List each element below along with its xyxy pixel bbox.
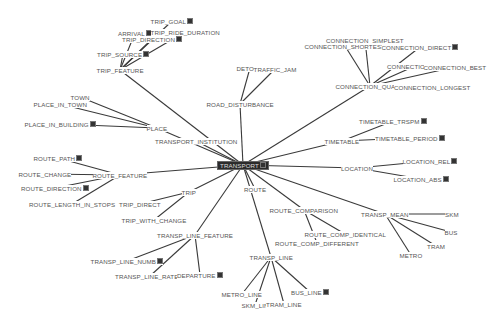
edge-transport-to-transp-line	[243, 165, 271, 257]
node-route-comp-different[interactable]: ROUTE_COMP_DIFFERENT	[275, 240, 359, 247]
node-label: CONNECTION_DIRECT	[382, 44, 452, 51]
node-label: TRANSPORT_INSTITUTION	[155, 138, 237, 145]
node-label: TRAFFIC_JAM	[254, 66, 297, 73]
node-bus[interactable]: BUS	[445, 229, 458, 236]
node-trip-goal[interactable]: TRIP_GOAL	[151, 18, 194, 25]
node-transp-mean[interactable]: TRANSP_MEAN	[361, 211, 409, 218]
node-trip-ride-duration[interactable]: TRIP_RIDE_DURATION	[151, 29, 220, 36]
node-departure[interactable]: DEPARTURE	[177, 272, 223, 279]
expand-badge-icon[interactable]	[90, 121, 96, 127]
node-route[interactable]: ROUTE	[244, 186, 266, 193]
node-bus-line[interactable]: BUS_LINE	[291, 289, 329, 296]
node-label: TRIP_SOURCE	[97, 51, 142, 58]
node-label: TIMETABLE_TRSPM	[359, 118, 420, 125]
node-place-in-town[interactable]: PLACE_IN_TOWN	[34, 101, 87, 108]
node-transp-line-numb[interactable]: TRANSP_LINE_NUMB	[91, 258, 164, 265]
expand-badge-icon[interactable]	[143, 51, 149, 57]
node-route-length-in-stops[interactable]: ROUTE_LENGTH_IN_STOPS	[29, 201, 115, 208]
node-metro[interactable]: METRO	[400, 252, 423, 259]
node-label: TRIP_FEATURE	[97, 67, 144, 74]
node-transp-line-feature[interactable]: TRANSP_LINE_FEATURE	[157, 232, 233, 239]
node-traffic-jam[interactable]: TRAFFIC_JAM	[254, 66, 297, 73]
node-location-rel[interactable]: LOCATION_REL	[403, 158, 458, 165]
node-label: ROUTE_CHANGE	[19, 171, 72, 178]
node-label: TRANSP_MEAN	[361, 211, 409, 218]
node-connection-shortest[interactable]: CONNECTION_SHORTEST	[305, 43, 386, 50]
node-road-disturbance[interactable]: ROAD_DISTURBANCE	[207, 101, 274, 108]
node-connection-direct[interactable]: CONNECTION_DIRECT	[382, 44, 459, 51]
node-trip[interactable]: TRIP	[182, 189, 197, 196]
edge-transport-to-road-disturbance	[240, 104, 243, 165]
node-metro-line[interactable]: METRO_LINE	[222, 291, 263, 298]
node-timetable[interactable]: TIMETABLE	[325, 138, 360, 145]
expand-badge-icon[interactable]	[187, 18, 193, 24]
expand-badge-icon[interactable]	[157, 258, 163, 264]
node-label: TRIP_DIRECTION	[122, 36, 175, 43]
edge-transport-to-place	[157, 128, 243, 165]
expand-badge-icon[interactable]	[217, 272, 223, 278]
node-route-path[interactable]: ROUTE_PATH	[34, 155, 83, 162]
node-connection-best[interactable]: CONNECTION_BEST	[424, 64, 487, 71]
node-trip-with-change[interactable]: TRIP_WITH_CHANGE	[122, 217, 187, 224]
node-label: PLACE	[147, 125, 168, 132]
edge-transp-line-to-skm-line	[255, 257, 271, 305]
node-label: BUS_LINE	[291, 289, 322, 296]
node-label: ROUTE	[244, 186, 266, 193]
expand-badge-icon[interactable]	[323, 289, 329, 295]
node-trip-source[interactable]: TRIP_SOURCE	[97, 51, 149, 58]
node-label: TRANSP_LINE_RATE	[115, 273, 178, 280]
node-label: TRIP_DIRECT	[119, 201, 161, 208]
node-trip-feature[interactable]: TRIP_FEATURE	[97, 67, 144, 74]
node-place[interactable]: PLACE	[147, 125, 168, 132]
node-route-feature[interactable]: ROUTE_FEATURE	[93, 172, 148, 179]
node-route-comparison[interactable]: ROUTE_COMPARISON	[270, 207, 339, 214]
expand-badge-icon[interactable]	[451, 158, 457, 164]
node-location[interactable]: LOCATION	[341, 165, 373, 172]
node-transp-line[interactable]: TRANSP_LINE	[250, 254, 293, 261]
node-label: TRANSPORT	[220, 162, 259, 169]
expand-badge-icon[interactable]	[260, 162, 266, 168]
node-timetable-period[interactable]: TIMETABLE_PERIOD	[375, 135, 445, 142]
node-skm-line[interactable]: SKM_LIN	[242, 302, 269, 309]
node-tram[interactable]: TRAM	[427, 243, 445, 250]
node-label: SKM_LIN	[242, 302, 269, 309]
node-label: ROAD_DISTURBANCE	[207, 101, 274, 108]
node-label: ROUTE_COMP_DIFFERENT	[275, 240, 359, 247]
node-skm[interactable]: SKM	[445, 211, 459, 218]
edge-transp-line-feature-to-transp-line-rate	[150, 235, 195, 276]
node-label: LOCATION	[341, 165, 373, 172]
node-tram-line[interactable]: TRAM_LINE	[266, 301, 302, 308]
expand-badge-icon[interactable]	[76, 155, 82, 161]
node-trip-direct[interactable]: TRIP_DIRECT	[119, 201, 161, 208]
edge-transport-to-connection-quality	[243, 86, 370, 165]
node-timetable-trspm[interactable]: TIMETABLE_TRSPM	[359, 118, 427, 125]
node-label: TOWN	[71, 94, 90, 101]
node-label: METRO_LINE	[222, 291, 263, 298]
node-route-change[interactable]: ROUTE_CHANGE	[19, 171, 72, 178]
expand-badge-icon[interactable]	[83, 185, 89, 191]
node-transport[interactable]: TRANSPORT	[217, 161, 269, 170]
node-route-direction[interactable]: ROUTE_DIRECTION	[21, 185, 89, 192]
expand-badge-icon[interactable]	[439, 135, 445, 141]
node-label: TIMETABLE	[325, 138, 360, 145]
node-route-comp-identical[interactable]: ROUTE_COMP_IDENTICAL	[305, 231, 386, 238]
expand-badge-icon[interactable]	[452, 44, 458, 50]
node-label: TRIP_GOAL	[151, 18, 187, 25]
graph-canvas[interactable]: TRANSPORTTRIP_FEATURETRIP_GOALARRIVALTRI…	[0, 0, 489, 328]
expand-badge-icon[interactable]	[443, 176, 449, 182]
node-transp-line-rate[interactable]: TRANSP_LINE_RATE	[115, 273, 185, 280]
node-place-in-building[interactable]: PLACE_IN_BUILDING	[25, 121, 96, 128]
node-label: ROUTE_COMP_IDENTICAL	[305, 231, 386, 238]
node-label: PLACE_IN_TOWN	[34, 101, 87, 108]
node-trip-direction[interactable]: TRIP_DIRECTION	[122, 36, 182, 43]
node-transport-institution[interactable]: TRANSPORT_INSTITUTION	[155, 138, 237, 145]
node-connection-longest[interactable]: CONNECTION_LONGEST	[394, 84, 470, 91]
expand-badge-icon[interactable]	[421, 118, 427, 124]
edge-transport-to-trip-feature	[120, 70, 243, 165]
node-town[interactable]: TOWN	[71, 94, 90, 101]
expand-badge-icon[interactable]	[176, 36, 182, 42]
node-label: ROUTE_DIRECTION	[21, 185, 82, 192]
node-label: ROUTE_LENGTH_IN_STOPS	[29, 201, 115, 208]
node-label: CONNECTION_BEST	[424, 64, 487, 71]
node-location-abs[interactable]: LOCATION_ABS	[394, 176, 449, 183]
